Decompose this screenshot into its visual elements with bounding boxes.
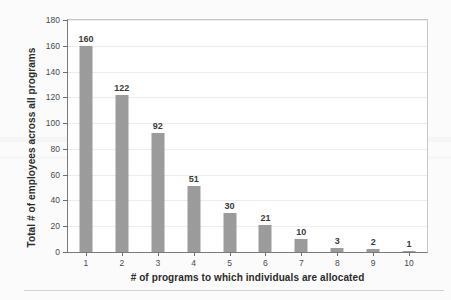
bar-value-label: 21	[260, 213, 270, 225]
x-axis-tick	[230, 252, 231, 256]
y-axis-tick-label: 0	[55, 247, 60, 257]
page-bottom-rule	[24, 290, 444, 291]
x-axis-tick-label: 3	[155, 258, 160, 268]
y-axis-tick	[63, 72, 68, 73]
x-axis-tick	[194, 252, 195, 256]
y-axis-tick-label: 100	[46, 118, 60, 128]
bar-value-label: 122	[114, 83, 129, 95]
y-axis-tick-label: 40	[51, 195, 60, 205]
y-axis-tick	[63, 20, 68, 21]
bar-value-label: 1	[407, 239, 412, 251]
bar	[259, 225, 272, 252]
x-axis-tick-label: 4	[191, 258, 196, 268]
gridline	[68, 72, 427, 73]
y-axis-tick-label: 140	[46, 67, 60, 77]
bar-value-label: 51	[189, 174, 199, 186]
y-axis-tick	[63, 97, 68, 98]
bar	[115, 95, 128, 252]
x-axis-tick	[122, 252, 123, 256]
x-axis-tick-label: 5	[227, 258, 232, 268]
x-axis-tick-label: 8	[335, 258, 340, 268]
bar-value-label: 2	[371, 237, 376, 249]
x-axis-tick-label: 2	[119, 258, 124, 268]
y-axis-tick	[63, 149, 68, 150]
x-axis-tick	[301, 252, 302, 256]
plot-area: 0204060801001201401601801601122292351430…	[67, 19, 428, 253]
x-axis-tick	[337, 252, 338, 256]
bar-value-label: 160	[78, 34, 93, 46]
bar-value-label: 10	[296, 227, 306, 239]
y-axis-tick	[63, 226, 68, 227]
chart-figure: Total # of employees across all programs…	[0, 0, 451, 300]
x-axis-tick	[86, 252, 87, 256]
y-axis-tick-label: 120	[46, 92, 60, 102]
bar	[79, 46, 92, 252]
bar-value-label: 30	[225, 201, 235, 213]
bar-value-label: 3	[335, 236, 340, 248]
y-axis-tick-label: 160	[46, 41, 60, 51]
x-axis-tick-label: 6	[263, 258, 268, 268]
y-axis-tick-label: 180	[46, 15, 60, 25]
x-axis-tick	[265, 252, 266, 256]
x-axis-tick-label: 1	[84, 258, 89, 268]
x-axis-tick-label: 7	[299, 258, 304, 268]
bar-value-label: 92	[153, 121, 163, 133]
y-axis-title: Total # of employees across all programs	[22, 15, 42, 280]
y-axis-tick	[63, 123, 68, 124]
y-axis-tick	[63, 46, 68, 47]
y-axis-tick	[63, 200, 68, 201]
bar	[151, 133, 164, 252]
y-axis-tick-label: 80	[51, 144, 60, 154]
bar	[223, 213, 236, 252]
x-axis-tick	[409, 252, 410, 256]
x-axis-title: # of programs to which individuals are a…	[67, 272, 428, 283]
x-axis-tick-label: 10	[404, 258, 413, 268]
y-axis-tick	[63, 252, 68, 253]
gridline	[68, 20, 427, 21]
y-axis-tick-label: 20	[51, 221, 60, 231]
x-axis-tick	[373, 252, 374, 256]
y-axis-tick-label: 60	[51, 170, 60, 180]
gridline	[68, 46, 427, 47]
x-axis-tick	[158, 252, 159, 256]
bar	[295, 239, 308, 252]
bar	[187, 186, 200, 252]
x-axis-tick-label: 9	[371, 258, 376, 268]
y-axis-tick	[63, 175, 68, 176]
